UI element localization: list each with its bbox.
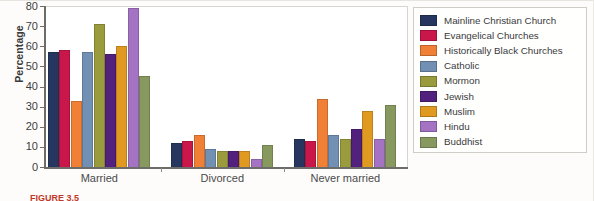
- legend-item: Mormon: [420, 74, 580, 89]
- bar: [351, 129, 362, 167]
- legend-label: Mainline Christian Church: [444, 16, 556, 26]
- bar: [128, 8, 139, 167]
- legend-item: Jewish: [420, 89, 580, 104]
- bar: [251, 159, 262, 167]
- legend-label: Jewish: [444, 92, 474, 102]
- bar-groups: [46, 6, 408, 167]
- legend-label: Evangelical Churches: [444, 31, 539, 41]
- y-axis-tick: [40, 127, 46, 128]
- bar: [374, 139, 385, 167]
- legend-item: Hindu: [420, 119, 580, 134]
- y-axis-tick: [40, 167, 46, 168]
- bar: [105, 54, 116, 167]
- x-axis-separator-tick: [284, 168, 285, 172]
- page-rule-top: [0, 0, 594, 1]
- bar: [205, 149, 216, 167]
- y-axis-tick-label: 30: [10, 101, 38, 112]
- bar: [139, 76, 150, 167]
- y-axis-tick: [40, 6, 46, 7]
- bar-group: [48, 6, 151, 167]
- bar: [59, 50, 70, 167]
- bar: [228, 151, 239, 167]
- y-axis-tick: [40, 46, 46, 47]
- bar: [171, 143, 182, 167]
- bar: [116, 46, 127, 167]
- legend-item: Mainline Christian Church: [420, 13, 580, 28]
- bar: [239, 151, 250, 167]
- y-axis-tick: [40, 107, 46, 108]
- bar: [294, 139, 305, 167]
- legend-swatch: [420, 106, 437, 117]
- figure-caption: FIGURE 3.5: [30, 193, 79, 201]
- y-axis-tick-label: 60: [10, 41, 38, 52]
- x-axis-line: [44, 167, 408, 169]
- legend-swatch: [420, 137, 437, 148]
- x-axis-group-label: Never married: [294, 172, 397, 184]
- legend-swatch: [420, 91, 437, 102]
- bar: [217, 151, 228, 167]
- bar: [82, 52, 93, 167]
- legend-swatch: [420, 121, 437, 132]
- y-axis-tick: [40, 66, 46, 67]
- bar: [317, 99, 328, 167]
- legend-label: Buddhist: [444, 137, 482, 147]
- legend-label: Historically Black Churches: [444, 46, 563, 56]
- bar: [48, 52, 59, 167]
- x-axis-separator-tick: [161, 168, 162, 172]
- y-axis-tick-label: 40: [10, 81, 38, 92]
- y-axis-tick: [40, 87, 46, 88]
- bar-group: [294, 6, 397, 167]
- legend-label: Catholic: [444, 61, 479, 71]
- bar: [362, 111, 373, 167]
- y-axis-tick: [40, 147, 46, 148]
- y-axis-tick-label: 20: [10, 121, 38, 132]
- legend-item: Catholic: [420, 59, 580, 74]
- legend-swatch: [420, 30, 437, 41]
- legend-swatch: [420, 15, 437, 26]
- y-axis-tick-label: 70: [10, 21, 38, 32]
- y-axis-tick: [40, 26, 46, 27]
- legend-swatch: [420, 76, 437, 87]
- legend-item: Evangelical Churches: [420, 28, 580, 43]
- legend-item: Historically Black Churches: [420, 43, 580, 58]
- y-axis-tick-label: 10: [10, 141, 38, 152]
- bar-group: [171, 6, 274, 167]
- legend-swatch: [420, 61, 437, 72]
- bar: [71, 101, 82, 167]
- bar: [328, 135, 339, 167]
- legend-label: Muslim: [444, 107, 475, 117]
- bar: [94, 24, 105, 167]
- x-axis-group-label: Married: [48, 172, 151, 184]
- bar: [262, 145, 273, 167]
- y-axis-tick-label: 80: [10, 1, 38, 12]
- bar: [194, 135, 205, 167]
- bar: [182, 141, 193, 167]
- legend-item: Muslim: [420, 104, 580, 119]
- bar: [340, 139, 351, 167]
- chart-legend: Mainline Christian ChurchEvangelical Chu…: [413, 7, 587, 153]
- y-axis-tick-label: 50: [10, 61, 38, 72]
- legend-label: Hindu: [444, 122, 470, 132]
- figure-container: Percentage 01020304050607080 Mainline Ch…: [0, 0, 594, 201]
- legend-item: Buddhist: [420, 135, 580, 150]
- x-axis-group-label: Divorced: [171, 172, 274, 184]
- y-axis-tick-label: 0: [10, 162, 38, 173]
- bar: [385, 105, 396, 167]
- bar: [305, 141, 316, 167]
- legend-label: Mormon: [444, 76, 480, 86]
- legend-swatch: [420, 45, 437, 56]
- y-axis-tick-labels: 01020304050607080: [0, 0, 38, 201]
